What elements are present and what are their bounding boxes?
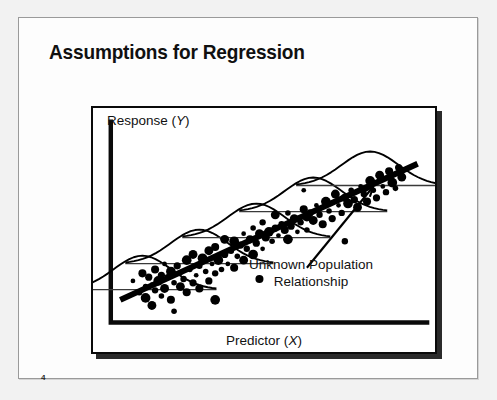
page-number: 4 [41,373,45,382]
y-axis-label: Response (Y) [107,113,190,128]
annotation-line-2: Relationship [221,273,401,290]
annotation-line-1: Unknown Population [221,256,401,273]
figure-frame: Response (Y) Predictor (X) Unknown Popul… [91,106,437,354]
slide-card: Assumptions for Regression Response (Y) … [18,17,478,379]
annotation-label: Unknown Population Relationship [221,256,401,291]
axes-group [111,122,427,323]
x-axis-label: Predictor (X) [93,333,435,348]
page-title: Assumptions for Regression [49,40,305,64]
regression-scatter-plot [93,108,435,352]
